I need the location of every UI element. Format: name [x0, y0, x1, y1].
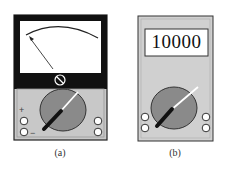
- terminal-right-bottom[interactable]: [202, 124, 210, 132]
- terminal-right-top[interactable]: [94, 117, 102, 125]
- terminal-left-bottom[interactable]: [141, 124, 149, 132]
- terminal-left-bottom[interactable]: [20, 128, 28, 136]
- terminal-right-bottom[interactable]: [94, 128, 102, 136]
- analog-meter-screen: [20, 21, 101, 73]
- display-reading: 10000: [145, 31, 208, 53]
- terminal-left-top[interactable]: [20, 117, 28, 125]
- caption-a: (a): [40, 147, 80, 158]
- plus-terminal-label: +: [19, 105, 24, 115]
- analog-multimeter: [14, 15, 107, 140]
- terminal-left-top[interactable]: [141, 113, 149, 121]
- caption-b: (b): [155, 147, 195, 158]
- minus-terminal-label: −: [30, 128, 35, 138]
- terminal-right-top[interactable]: [202, 113, 210, 121]
- figure-canvas: [0, 0, 232, 169]
